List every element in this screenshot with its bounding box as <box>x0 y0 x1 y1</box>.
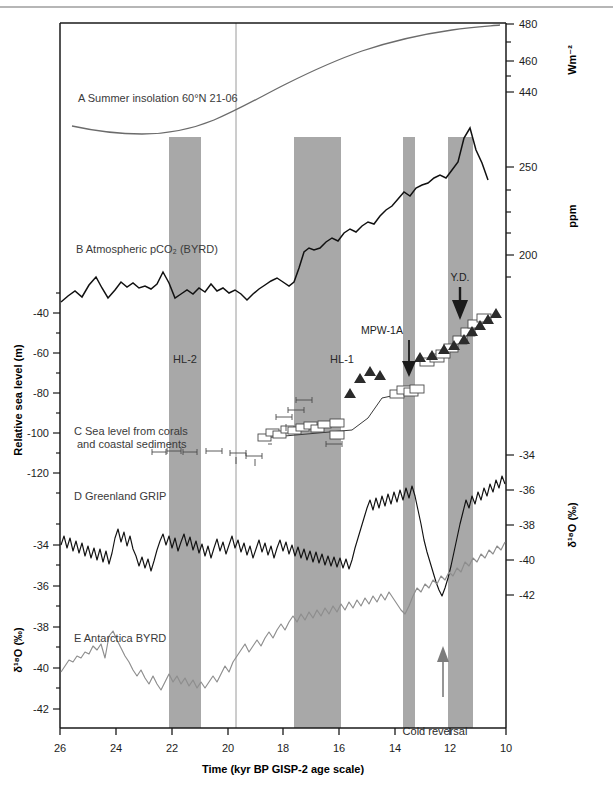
tick-x-0: 26 <box>54 742 66 754</box>
tick-x-8: 10 <box>500 742 512 754</box>
paleoclimate-multi-panel-chart: -40 -60 -80 -100 -120 -34 -36 -38 -40 -4… <box>0 0 613 789</box>
tick-x-4: 18 <box>277 742 289 754</box>
tick-left-d18o-3: -40 <box>33 662 49 674</box>
series-label-a-insolation: A Summer insolation 60°N 21-06 <box>78 92 238 104</box>
tick-x-7: 12 <box>444 742 456 754</box>
tick-x-1: 24 <box>110 742 122 754</box>
right-axis-insolation-title: Wm⁻² <box>566 45 578 75</box>
band-label-cold-reversal: Cold reversal <box>403 725 468 737</box>
tick-x-5: 16 <box>333 742 345 754</box>
band-cold-reversal <box>448 137 473 728</box>
band-label-hl1: HL-1 <box>330 353 354 365</box>
series-label-c-sealevel-line1: C Sea level from corals <box>74 425 188 437</box>
tick-right-d18o-0: -34 <box>519 449 535 461</box>
tick-right-co2-0: 250 <box>519 161 537 173</box>
tick-left-sealevel-2: -80 <box>33 387 49 399</box>
series-label-b-pco2: B Atmospheric pCO₂ (BYRD) <box>76 243 218 255</box>
tick-right-d18o-2: -38 <box>519 519 535 531</box>
tick-left-sealevel-1: -60 <box>33 347 49 359</box>
annotation-label-yd: Y.D. <box>450 271 469 283</box>
tick-right-insolation-2: 440 <box>519 86 537 98</box>
x-axis-title: Time (kyr BP GISP-2 age scale) <box>202 763 365 775</box>
tick-right-d18o-4: -42 <box>519 589 535 601</box>
tick-x-6: 14 <box>389 742 401 754</box>
tick-left-sealevel-3: -100 <box>27 427 49 439</box>
tick-right-insolation-0: 480 <box>519 18 537 30</box>
tick-right-insolation-1: 460 <box>519 55 537 67</box>
band-narrow-14kyr <box>403 137 415 728</box>
series-label-d-grip: D Greenland GRIP <box>74 490 166 502</box>
tick-left-d18o-4: -42 <box>33 703 49 715</box>
tick-left-d18o-1: -36 <box>33 580 49 592</box>
tick-right-co2-1: 200 <box>519 249 537 261</box>
series-label-e-byrd: E Antarctica BYRD <box>74 632 166 644</box>
tick-left-sealevel-4: -120 <box>27 467 49 479</box>
left-axis-d18o-title: δ¹⁸O (‰) <box>12 627 24 673</box>
tick-left-d18o-0: -34 <box>33 539 49 551</box>
tick-left-sealevel-0: -40 <box>33 307 49 319</box>
tick-right-d18o-1: -36 <box>519 484 535 496</box>
series-label-c-sealevel-line2: and coastal sediments <box>77 438 187 450</box>
tick-x-2: 22 <box>166 742 178 754</box>
right-axis-co2-title: ppm <box>566 204 578 227</box>
left-axis-sealevel-title: Relative sea level (m) <box>12 344 24 456</box>
figure-container: -40 -60 -80 -100 -120 -34 -36 -38 -40 -4… <box>0 0 613 789</box>
right-axis-d18o-title: δ¹⁸O (‰) <box>566 502 578 548</box>
tick-x-3: 20 <box>222 742 234 754</box>
tick-left-d18o-2: -38 <box>33 621 49 633</box>
tick-right-d18o-3: -40 <box>519 554 535 566</box>
band-label-hl2: HL-2 <box>173 353 197 365</box>
annotation-label-mpw-1a: MPW-1A <box>361 324 403 336</box>
